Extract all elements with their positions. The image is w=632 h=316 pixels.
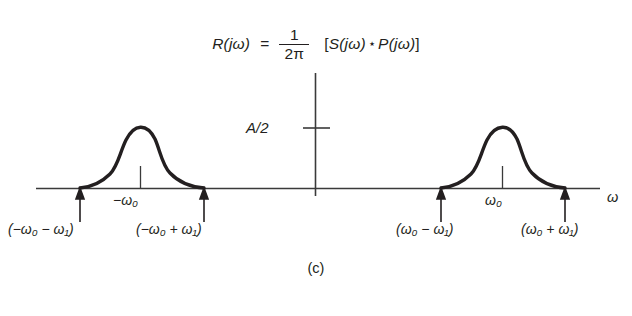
arrow-head-right-lower — [437, 188, 445, 199]
y-axis-label-a-over-2: A/2 — [246, 119, 269, 136]
figure-container: R(jω) = 1 2π [S(jω)⋆P(jω)] — [0, 0, 632, 316]
x-axis-title-omega: ω — [607, 189, 618, 205]
figure-caption: (c) — [0, 260, 632, 276]
arrow-head-left-upper — [200, 188, 208, 199]
annotation-left-upper-bound: (−ω₀ + ω₁) — [136, 221, 202, 237]
arrow-head-right-upper — [561, 188, 569, 199]
arrow-head-left-lower — [76, 188, 84, 199]
annotation-left-lower-bound: (−ω₀ − ω₁) — [8, 221, 74, 237]
x-axis-label-positive-omega0: ω₀ — [485, 192, 502, 208]
annotation-right-lower-bound: (ω₀ − ω₁) — [396, 221, 453, 237]
curve-lobe-left — [80, 127, 204, 188]
annotation-right-upper-bound: (ω₀ + ω₁) — [521, 221, 578, 237]
x-axis-label-negative-omega0: −ω₀ — [113, 192, 138, 208]
